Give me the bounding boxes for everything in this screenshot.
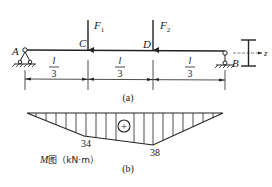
caption-a: (a) bbox=[122, 92, 133, 104]
beam bbox=[25, 50, 225, 51]
moment-diagram-title: M图（kN·m） bbox=[39, 154, 99, 165]
force-f2-label: F2 bbox=[159, 19, 171, 34]
force-f1-label: F1 bbox=[93, 19, 105, 34]
svg-text:l: l bbox=[189, 55, 192, 66]
label-c: C bbox=[79, 37, 87, 49]
segment-label-1: l 3 bbox=[49, 55, 59, 79]
caption-b: (b) bbox=[122, 163, 134, 175]
moment-value-c: 34 bbox=[81, 138, 91, 149]
svg-text:3: 3 bbox=[52, 68, 57, 79]
svg-text:l: l bbox=[53, 55, 56, 66]
moment-value-d: 38 bbox=[150, 147, 160, 158]
beam-diagram: A B F1 C F2 D l 3 l 3 l bbox=[0, 0, 272, 187]
svg-text:+: + bbox=[121, 120, 127, 132]
positive-sign-icon: + bbox=[118, 120, 130, 132]
svg-text:l: l bbox=[119, 55, 122, 66]
figure-a: A B F1 C F2 D l 3 l 3 l bbox=[11, 19, 268, 104]
svg-text:3: 3 bbox=[118, 68, 123, 79]
figure-b-moment-diagram: + 34 38 M图（kN·m） (b) bbox=[27, 113, 223, 175]
svg-text:3: 3 bbox=[188, 68, 193, 79]
label-d: D bbox=[142, 38, 151, 50]
axis-z-label: z bbox=[263, 48, 268, 58]
label-a: A bbox=[11, 45, 19, 57]
label-b: B bbox=[232, 57, 239, 69]
segment-label-2: l 3 bbox=[115, 55, 125, 79]
segment-label-3: l 3 bbox=[185, 55, 195, 79]
